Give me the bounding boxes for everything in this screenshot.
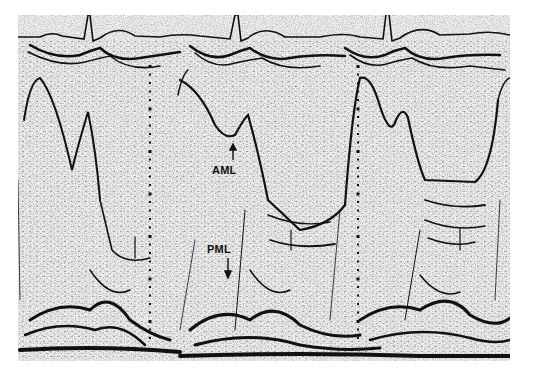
echo-trace-graphic [18,15,510,361]
aml-label: AML [212,164,236,176]
pml-label: PML [207,243,231,255]
echocardiogram-figure: AML PML [18,15,510,361]
